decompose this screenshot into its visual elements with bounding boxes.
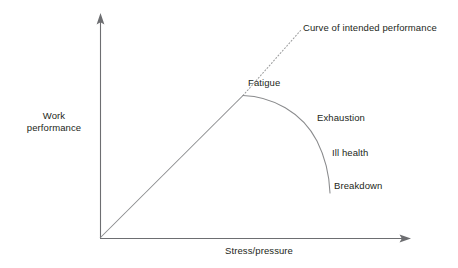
rising-performance-line [100,96,243,239]
annotation-curve-of-intended-performance: Curve of intended performance [303,22,437,34]
y-axis-label-line-1: Work [14,110,94,122]
x-axis [100,235,411,243]
annotation-ill-health: Ill health [332,147,368,159]
annotation-exhaustion: Exhaustion [317,112,365,124]
y-axis-label: Work performance [14,110,94,133]
y-axis-label-line-2: performance [14,122,94,134]
x-axis-label: Stress/pressure [200,245,318,257]
y-axis [97,13,105,238]
diagram-canvas: Work performance Stress/pressure Curve o… [0,0,458,268]
annotation-fatigue: Fatigue [248,77,280,89]
declining-performance-curve [243,96,330,194]
annotation-breakdown: Breakdown [334,180,382,192]
performance-stress-diagram [0,0,458,268]
